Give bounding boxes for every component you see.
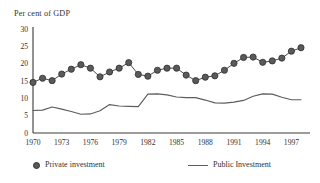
svg-text:1982: 1982 bbox=[140, 138, 155, 147]
svg-text:1988: 1988 bbox=[198, 138, 213, 147]
data-point-marker bbox=[221, 67, 227, 73]
svg-text:1973: 1973 bbox=[54, 138, 69, 147]
data-point-marker bbox=[59, 71, 65, 77]
data-point-marker bbox=[202, 74, 208, 80]
data-point-marker bbox=[212, 73, 218, 79]
data-point-marker bbox=[183, 72, 189, 78]
svg-text:20: 20 bbox=[20, 59, 28, 68]
svg-text:1985: 1985 bbox=[169, 138, 184, 147]
data-point-marker bbox=[193, 78, 199, 84]
svg-text:5: 5 bbox=[24, 111, 28, 120]
y-axis-tick-labels: 051015202530 bbox=[20, 25, 28, 138]
data-point-marker bbox=[145, 73, 151, 79]
data-point-marker bbox=[279, 55, 285, 61]
svg-text:1976: 1976 bbox=[83, 138, 98, 147]
filled-circle-marker-icon bbox=[33, 162, 40, 169]
data-point-marker bbox=[135, 71, 141, 77]
svg-text:1994: 1994 bbox=[255, 138, 270, 147]
data-point-marker bbox=[250, 54, 256, 60]
data-point-marker bbox=[164, 65, 170, 71]
svg-text:25: 25 bbox=[20, 42, 28, 51]
private-investment-markers bbox=[30, 45, 304, 86]
svg-text:1997: 1997 bbox=[284, 138, 299, 147]
chart-legend: Private investment Public Investment bbox=[0, 158, 320, 180]
data-point-marker bbox=[49, 78, 55, 84]
data-point-marker bbox=[269, 58, 275, 64]
data-point-marker bbox=[30, 79, 36, 85]
data-point-marker bbox=[39, 75, 45, 81]
svg-text:0: 0 bbox=[24, 129, 28, 138]
data-point-marker bbox=[240, 54, 246, 60]
data-point-marker bbox=[78, 62, 84, 68]
chart-plot-area: 051015202530 197019731976197919821985198… bbox=[0, 0, 320, 183]
data-point-marker bbox=[68, 66, 74, 72]
legend-item-private-investment: Private investment bbox=[33, 161, 105, 169]
svg-text:1979: 1979 bbox=[112, 138, 127, 147]
svg-text:10: 10 bbox=[20, 94, 28, 103]
data-point-marker bbox=[173, 65, 179, 71]
data-point-marker bbox=[87, 65, 93, 71]
x-axis-tick-labels: 1970197319761979198219851988199119941997 bbox=[25, 138, 299, 147]
data-point-marker bbox=[231, 60, 237, 66]
svg-text:30: 30 bbox=[20, 25, 28, 34]
data-point-marker bbox=[154, 67, 160, 73]
svg-text:1991: 1991 bbox=[226, 138, 241, 147]
data-point-marker bbox=[116, 65, 122, 71]
investment-chart-figure: Per cent of GDP 051015202530 19701973197… bbox=[0, 0, 320, 183]
public-investment-line bbox=[33, 94, 301, 114]
data-point-marker bbox=[260, 59, 266, 65]
legend-item-public-investment: Public Investment bbox=[188, 161, 271, 169]
legend-label-private: Private investment bbox=[45, 161, 105, 169]
data-point-marker bbox=[126, 60, 132, 66]
solid-line-marker-icon bbox=[188, 165, 208, 166]
data-point-marker bbox=[106, 69, 112, 75]
svg-text:15: 15 bbox=[20, 77, 28, 86]
data-point-marker bbox=[298, 45, 304, 51]
svg-text:1970: 1970 bbox=[25, 138, 40, 147]
data-point-marker bbox=[97, 74, 103, 80]
legend-label-public: Public Investment bbox=[213, 161, 271, 169]
data-point-marker bbox=[288, 48, 294, 54]
